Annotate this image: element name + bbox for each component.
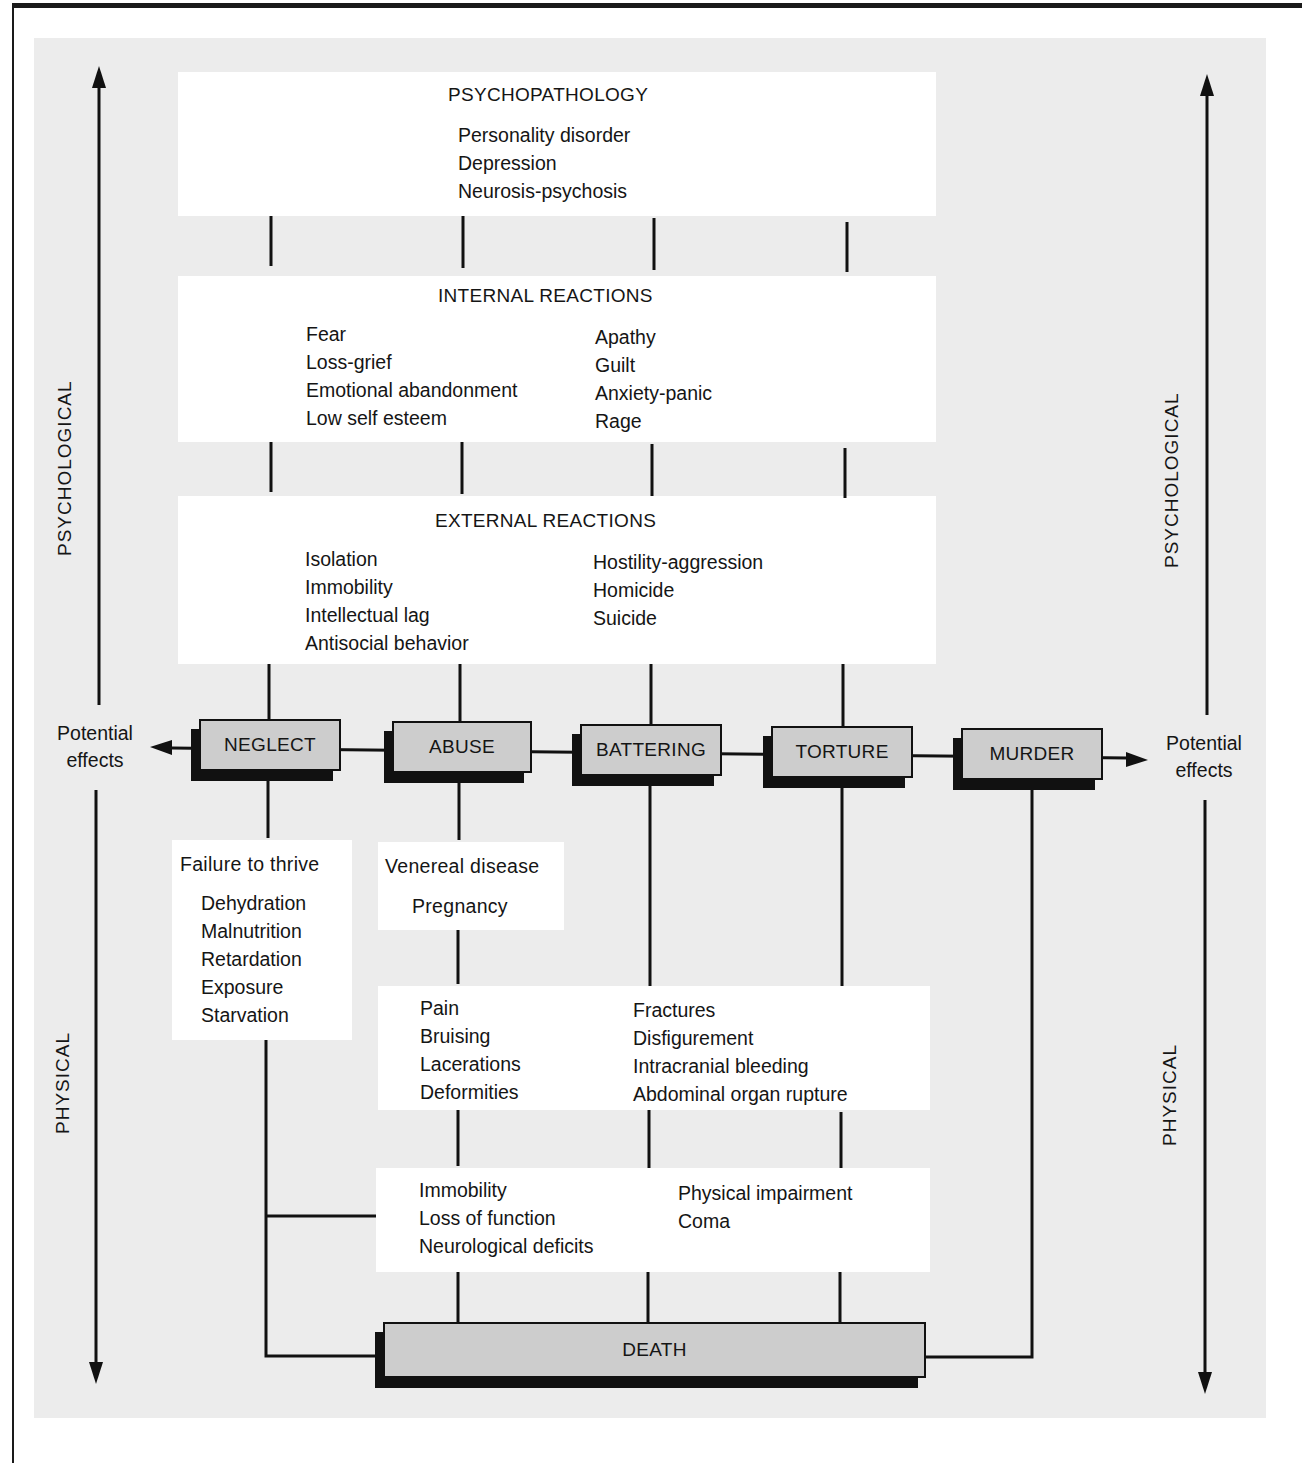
list-item: Personality disorder bbox=[458, 121, 630, 149]
list-item: Low self esteem bbox=[306, 404, 517, 432]
list-item: Immobility bbox=[419, 1176, 594, 1204]
left-potential-line2: effects bbox=[40, 747, 150, 774]
injuries-right: Fractures Disfigurement Intracranial ble… bbox=[633, 996, 848, 1108]
right-potential-line1: Potential bbox=[1149, 730, 1259, 757]
list-item: Intracranial bleeding bbox=[633, 1052, 848, 1080]
internal-reactions-right: Apathy Guilt Anxiety-panic Rage bbox=[595, 323, 712, 435]
list-item: Exposure bbox=[201, 973, 306, 1001]
pregnancy-label: Pregnancy bbox=[412, 895, 508, 918]
neglect-effects-list: Dehydration Malnutrition Retardation Exp… bbox=[201, 889, 306, 1029]
left-potential-effects: Potential effects bbox=[40, 720, 150, 774]
list-item: Fear bbox=[306, 320, 517, 348]
right-potential-effects: Potential effects bbox=[1149, 730, 1259, 784]
list-item: Neurosis-psychosis bbox=[458, 177, 630, 205]
external-reactions-title: EXTERNAL REACTIONS bbox=[435, 510, 656, 532]
stage-neglect: NEGLECT bbox=[199, 719, 341, 771]
external-reactions-right: Hostility-aggression Homicide Suicide bbox=[593, 548, 763, 632]
list-item: Depression bbox=[458, 149, 630, 177]
list-item: Fractures bbox=[633, 996, 848, 1024]
list-item: Rage bbox=[595, 407, 712, 435]
injuries-left: Pain Bruising Lacerations Deformities bbox=[420, 994, 521, 1106]
psychopathology-list: Personality disorder Depression Neurosis… bbox=[458, 121, 630, 205]
list-item: Immobility bbox=[305, 573, 469, 601]
stage-abuse: ABUSE bbox=[392, 721, 532, 773]
list-item: Pain bbox=[420, 994, 521, 1022]
list-item: Loss of function bbox=[419, 1204, 594, 1232]
list-item: Apathy bbox=[595, 323, 712, 351]
psychopathology-title: PSYCHOPATHOLOGY bbox=[448, 84, 648, 106]
list-item: Loss-grief bbox=[306, 348, 517, 376]
list-item: Isolation bbox=[305, 545, 469, 573]
venereal-disease-label: Venereal disease bbox=[385, 855, 539, 878]
stage-torture: TORTURE bbox=[771, 726, 913, 778]
failure-to-thrive-title: Failure to thrive bbox=[180, 853, 320, 876]
left-physical-label: PHYSICAL bbox=[52, 1023, 74, 1143]
right-physical-label: PHYSICAL bbox=[1159, 1035, 1181, 1155]
stage-murder: MURDER bbox=[961, 728, 1103, 780]
list-item: Antisocial behavior bbox=[305, 629, 469, 657]
list-item: Retardation bbox=[201, 945, 306, 973]
list-item: Starvation bbox=[201, 1001, 306, 1029]
list-item: Suicide bbox=[593, 604, 763, 632]
list-item: Guilt bbox=[595, 351, 712, 379]
list-item: Physical impairment bbox=[678, 1179, 852, 1207]
impairments-left: Immobility Loss of function Neurological… bbox=[419, 1176, 594, 1260]
impairments-right: Physical impairment Coma bbox=[678, 1179, 852, 1235]
outcome-death: DEATH bbox=[383, 1322, 926, 1378]
left-potential-line1: Potential bbox=[40, 720, 150, 747]
list-item: Intellectual lag bbox=[305, 601, 469, 629]
list-item: Disfigurement bbox=[633, 1024, 848, 1052]
list-item: Dehydration bbox=[201, 889, 306, 917]
right-potential-line2: effects bbox=[1149, 757, 1259, 784]
list-item: Deformities bbox=[420, 1078, 521, 1106]
list-item: Coma bbox=[678, 1207, 852, 1235]
list-item: Anxiety-panic bbox=[595, 379, 712, 407]
list-item: Lacerations bbox=[420, 1050, 521, 1078]
list-item: Abdominal organ rupture bbox=[633, 1080, 848, 1108]
internal-reactions-title: INTERNAL REACTIONS bbox=[438, 285, 653, 307]
external-reactions-left: Isolation Immobility Intellectual lag An… bbox=[305, 545, 469, 657]
right-psychological-label: PSYCHOLOGICAL bbox=[1161, 418, 1183, 568]
list-item: Homicide bbox=[593, 576, 763, 604]
list-item: Neurological deficits bbox=[419, 1232, 594, 1260]
list-item: Hostility-aggression bbox=[593, 548, 763, 576]
internal-reactions-left: Fear Loss-grief Emotional abandonment Lo… bbox=[306, 320, 517, 432]
list-item: Bruising bbox=[420, 1022, 521, 1050]
stage-battering: BATTERING bbox=[580, 724, 722, 776]
list-item: Malnutrition bbox=[201, 917, 306, 945]
list-item: Emotional abandonment bbox=[306, 376, 517, 404]
left-psychological-label: PSYCHOLOGICAL bbox=[54, 406, 76, 556]
